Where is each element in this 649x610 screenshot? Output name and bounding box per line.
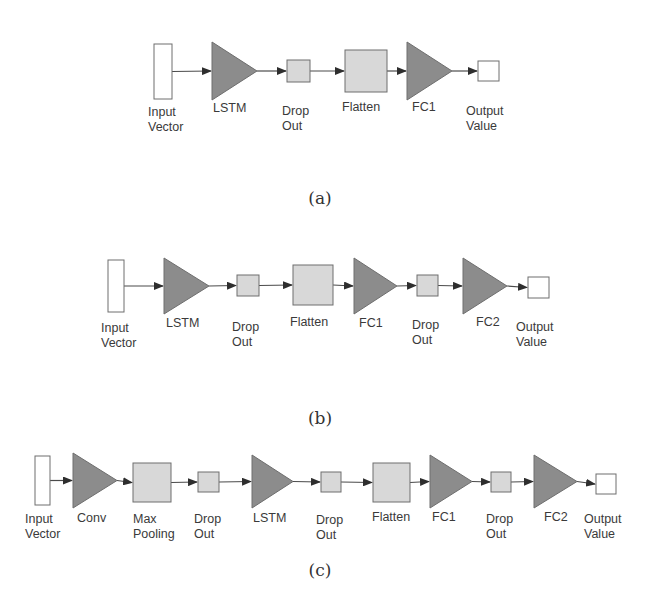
conv-label: Conv [77, 511, 106, 526]
label-line: Output [516, 320, 554, 335]
label-line: FC1 [432, 510, 456, 525]
drop-out-label: DropOut [316, 513, 343, 543]
edge-arrow [333, 285, 353, 286]
edge-arrow [172, 71, 211, 72]
label-line: LSTM [253, 511, 286, 526]
drop-out-layer-box [417, 275, 438, 296]
drop-out-label: DropOut [282, 104, 309, 134]
lstm-label: LSTM [166, 316, 199, 331]
label-line: Out [194, 527, 221, 542]
edge-arrow [397, 286, 416, 287]
edge-arrow [341, 482, 372, 483]
label-line: Flatten [290, 315, 328, 330]
edge-arrow [209, 286, 236, 287]
flatten-layer-box [373, 463, 410, 502]
fc1-layer-triangle [354, 258, 397, 314]
label-line: Flatten [342, 100, 380, 115]
max-pooling-layer-box [133, 463, 171, 502]
diagram-b [108, 258, 549, 314]
lstm-layer-triangle [252, 455, 293, 508]
lstm-label: LSTM [213, 101, 246, 116]
label-line: FC2 [476, 315, 500, 330]
drop-out-layer-box [237, 275, 259, 296]
label-line: Flatten [372, 510, 410, 525]
output-value-label: OutputValue [584, 512, 622, 542]
edge-arrow [219, 482, 251, 483]
label-line: Out [316, 528, 343, 543]
fc2-layer-triangle [534, 455, 577, 508]
drop-out-layer-box [491, 472, 511, 492]
label-line: Drop [412, 318, 439, 333]
label-line: Drop [316, 513, 343, 528]
flatten-layer-box [345, 50, 387, 92]
input-vector-label: InputVector [25, 512, 60, 542]
label-line: Output [466, 104, 504, 119]
edge-arrow [293, 482, 320, 483]
caption-c: (c) [309, 560, 332, 580]
fc1-layer-triangle [430, 455, 472, 508]
label-line: Drop [282, 104, 309, 119]
edge-arrow [511, 482, 533, 483]
flatten-label: Flatten [372, 510, 410, 525]
diagram-a [154, 42, 499, 100]
edge-arrow [259, 285, 292, 286]
fc2-layer-triangle [463, 258, 507, 314]
label-line: Input [25, 512, 60, 527]
edge-arrow [438, 286, 462, 287]
edge-arrow [410, 482, 429, 483]
drop-out-layer-box [321, 472, 341, 492]
label-line: FC2 [544, 510, 568, 525]
label-line: Vector [25, 527, 60, 542]
input-vector-label: InputVector [148, 105, 183, 135]
output-value-label: OutputValue [516, 320, 554, 350]
label-line: Out [282, 119, 309, 134]
label-line: Vector [148, 120, 183, 135]
label-line: Vector [101, 336, 136, 351]
edge-arrow [117, 481, 132, 483]
conv-layer-triangle [73, 453, 117, 508]
label-line: Conv [77, 511, 106, 526]
label-line: Value [584, 527, 622, 542]
label-line: Output [584, 512, 622, 527]
label-line: Input [101, 321, 136, 336]
label-line: Input [148, 105, 183, 120]
fc1-label: FC1 [412, 100, 436, 115]
diagram-c [35, 453, 616, 508]
output-value-label: OutputValue [466, 104, 504, 134]
edge-arrow [507, 286, 527, 288]
label-line: Max [133, 512, 175, 527]
fc2-label: FC2 [476, 315, 500, 330]
label-line: Drop [232, 320, 259, 335]
max-pooling-label: MaxPooling [133, 512, 175, 542]
lstm-layer-triangle [212, 42, 257, 100]
drop-out-layer-box [287, 60, 310, 82]
label-line: Drop [194, 512, 221, 527]
drop-out-label: DropOut [232, 320, 259, 350]
label-line: Out [486, 527, 513, 542]
flatten-label: Flatten [342, 100, 380, 115]
input-vector-node [108, 260, 124, 312]
label-line: FC1 [359, 316, 383, 331]
output-value-node [478, 61, 499, 81]
label-line: Value [466, 119, 504, 134]
label-line: Drop [486, 512, 513, 527]
flatten-label: Flatten [290, 315, 328, 330]
output-value-node [596, 474, 616, 494]
fc1-label: FC1 [359, 316, 383, 331]
input-vector-node [154, 44, 172, 99]
flatten-layer-box [293, 265, 333, 305]
drop-out-label: DropOut [194, 512, 221, 542]
output-value-node [528, 277, 549, 298]
edge-arrow [472, 482, 490, 483]
label-line: Pooling [133, 527, 175, 542]
fc1-label: FC1 [432, 510, 456, 525]
edge-arrow [171, 482, 197, 483]
edge-arrow [577, 482, 595, 485]
label-line: Out [412, 333, 439, 348]
drop-out-label: DropOut [486, 512, 513, 542]
drop-out-layer-box [198, 472, 219, 492]
label-line: Value [516, 335, 554, 350]
lstm-label: LSTM [253, 511, 286, 526]
fc1-layer-triangle [407, 42, 452, 100]
label-line: LSTM [213, 101, 246, 116]
